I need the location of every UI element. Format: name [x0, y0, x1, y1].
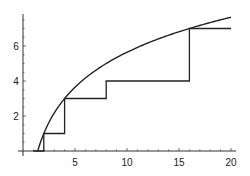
axes	[18, 14, 236, 156]
y-tick-label: 6	[13, 41, 19, 52]
chart: 5101520246	[0, 0, 250, 176]
plot-area: 5101520246	[0, 0, 250, 176]
series-group	[33, 17, 231, 151]
step-line	[33, 29, 231, 152]
y-tick-label: 4	[13, 76, 19, 87]
x-tick-label: 20	[225, 157, 237, 168]
ticks: 5101520246	[13, 20, 237, 168]
x-tick-label: 15	[173, 157, 185, 168]
y-tick-label: 2	[13, 111, 19, 122]
x-tick-label: 5	[72, 157, 78, 168]
curve-line	[38, 17, 231, 151]
x-tick-label: 10	[121, 157, 133, 168]
